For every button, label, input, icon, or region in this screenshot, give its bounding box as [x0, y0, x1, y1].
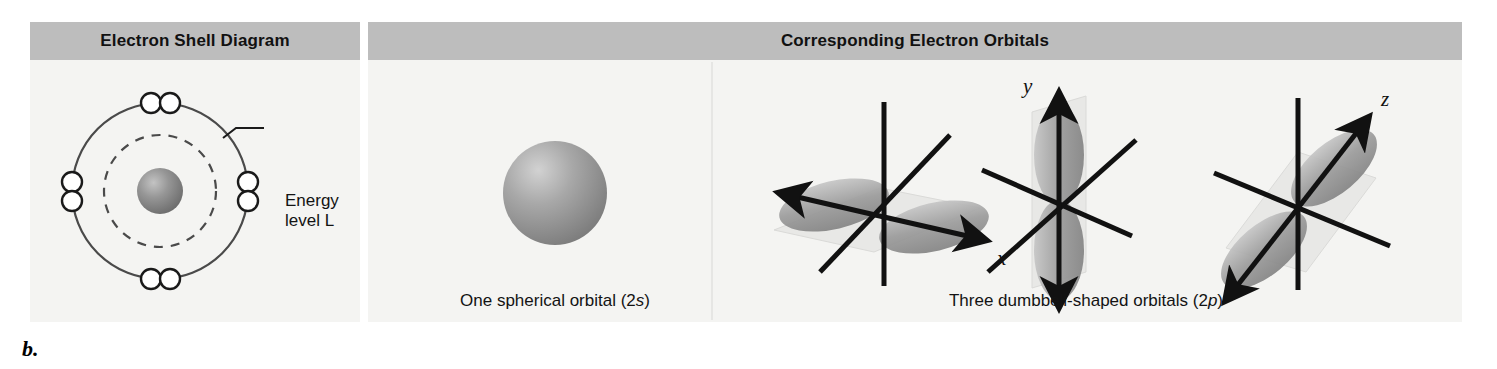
electron-dot — [238, 191, 258, 211]
divider-s-orbital-p-orbitals — [711, 62, 713, 320]
electron-dot — [160, 269, 180, 289]
panel-electron-shell: Energy level L — [30, 60, 360, 322]
p-orbital-x-group: x — [774, 102, 1007, 286]
p-orbital-y-axis-label: y — [1021, 74, 1033, 98]
caption-s-orbital-suffix: ) — [644, 291, 650, 310]
electron-dot — [160, 93, 180, 113]
figure-letter: b. — [22, 336, 39, 362]
electron-dot — [62, 172, 82, 192]
p-orbital-y-group: y — [982, 74, 1136, 306]
caption-s-orbital-prefix: One spherical orbital (2 — [460, 291, 636, 310]
p-orbital-z-axis-label: z — [1380, 87, 1389, 111]
caption-p-orbitals-suffix: ) — [1217, 291, 1223, 310]
electron-dot — [141, 93, 161, 113]
electron-dot — [141, 269, 161, 289]
header-corresponding-electron-orbitals: Corresponding Electron Orbitals — [368, 22, 1462, 60]
electron-dot — [238, 172, 258, 192]
energy-level-label-line1: Energy — [285, 191, 339, 211]
header-electron-shell-diagram: Electron Shell Diagram — [30, 22, 360, 60]
nucleus-sphere — [137, 168, 183, 214]
panel-electron-orbitals: x y — [368, 60, 1462, 322]
caption-p-orbitals-italic: p — [1208, 291, 1217, 310]
energy-level-label-line2: level L — [285, 211, 339, 231]
electron-pair-right — [238, 172, 258, 211]
caption-p-orbitals: Three dumbbell-shaped orbitals (2p) — [726, 291, 1446, 311]
figure-container: Electron Shell Diagram Corresponding Ele… — [0, 0, 1497, 369]
caption-p-orbitals-prefix: Three dumbbell-shaped orbitals (2 — [949, 291, 1208, 310]
electron-pair-left — [62, 172, 82, 211]
energy-level-label: Energy level L — [285, 191, 339, 231]
s-orbital-sphere-group — [503, 141, 607, 245]
electron-pair-bottom — [141, 269, 180, 289]
s-orbital-sphere — [503, 141, 607, 245]
caption-s-orbital: One spherical orbital (2s) — [405, 291, 705, 311]
electron-pair-top — [141, 93, 180, 113]
electron-dot — [62, 191, 82, 211]
electron-orbitals-diagram: x y — [368, 60, 1462, 322]
p-orbital-z-group: z — [1208, 87, 1390, 303]
